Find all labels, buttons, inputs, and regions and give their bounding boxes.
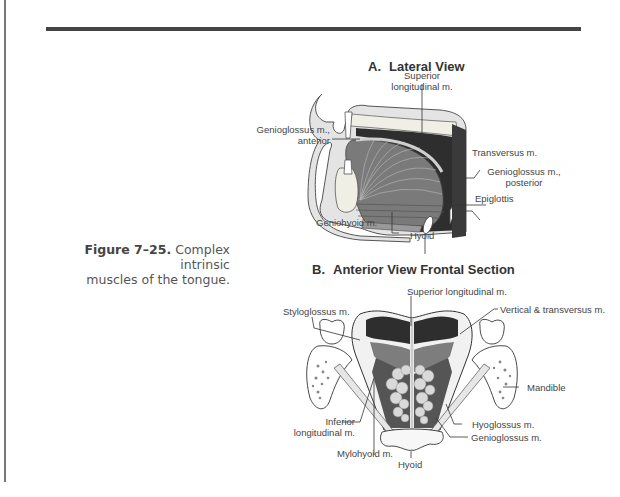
label-superior-longitudinal-anterior: Superior longitudinal m.	[407, 286, 507, 297]
panel-b-letter: B.	[312, 262, 325, 277]
label-genioglossus-anterior: Genioglossus m., anterior	[246, 124, 330, 146]
label-line: Superior	[386, 70, 458, 81]
figure-caption: Figure 7–25. Complex intrinsic muscles o…	[40, 242, 230, 287]
label-hyoid-anterior: Hyoid	[398, 459, 422, 470]
label-epiglottis: Epiglottis	[475, 193, 514, 204]
panel-b-title-text: Anterior View Frontal Section	[333, 262, 515, 277]
label-geniohyoid: Geniohyoid m.	[316, 217, 377, 228]
label-line: longitudinal m.	[386, 81, 458, 92]
label-line: anterior	[246, 135, 330, 146]
label-mandible: Mandible	[527, 382, 566, 393]
caption-text-line2: muscles of the tongue.	[40, 272, 230, 287]
label-line: Inferior	[285, 416, 355, 427]
label-hyoglossus: Hyoglossus m.	[472, 419, 534, 430]
label-superior-longitudinal-lateral: Superior longitudinal m.	[386, 70, 458, 92]
label-hyoid-lateral: Hyoid	[410, 230, 434, 241]
panel-b-title: B.Anterior View Frontal Section	[312, 262, 515, 277]
caption-text-line1: Complex intrinsic	[175, 242, 230, 272]
label-line: posterior	[484, 177, 564, 188]
lateral-view-illustration	[308, 84, 486, 254]
panel-a-letter: A.	[368, 59, 381, 74]
label-line: Genioglossus m.,	[484, 166, 564, 177]
label-line: Genioglossus m.,	[246, 124, 330, 135]
figure-number: Figure 7–25.	[84, 242, 171, 257]
label-inferior-longitudinal: Inferior longitudinal m.	[285, 416, 355, 438]
label-line: longitudinal m.	[285, 427, 355, 438]
label-genioglossus-posterior: Genioglossus m., posterior	[484, 166, 564, 188]
label-vertical-transversus: Vertical & transversus m.	[500, 304, 605, 315]
label-styloglossus: Styloglossus m.	[283, 306, 350, 317]
label-mylohyoid: Mylohyoid m.	[337, 448, 393, 459]
label-genioglossus-anterior-view: Genioglossus m.	[471, 432, 542, 443]
label-transversus: Transversus m.	[472, 147, 537, 158]
